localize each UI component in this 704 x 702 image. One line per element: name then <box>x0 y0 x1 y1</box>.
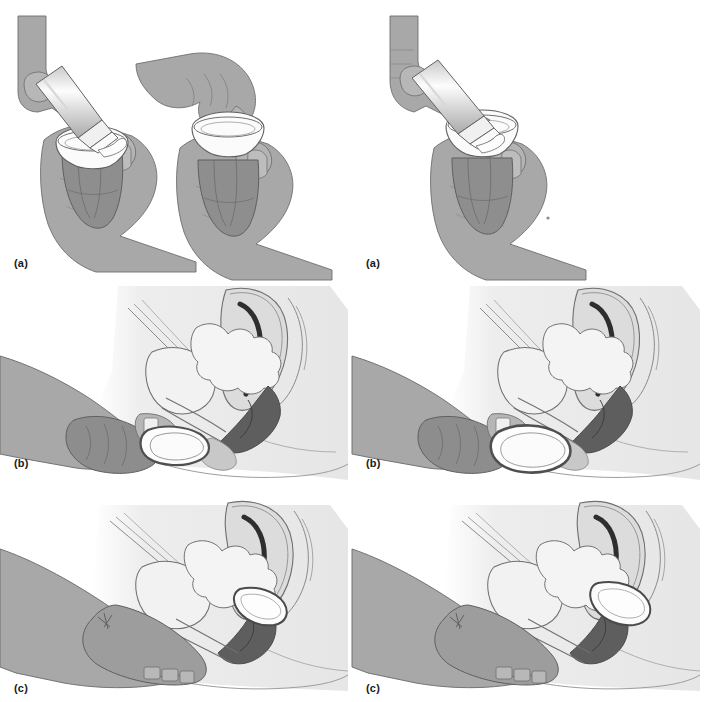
panel-label-right-c: (c) <box>366 683 380 694</box>
panel-label-left-c: (c) <box>14 683 28 694</box>
panel-label-right-b: (b) <box>366 458 381 469</box>
panel-label-left-b: (b) <box>14 458 29 469</box>
folded-cap <box>491 425 571 472</box>
panel-label-right-a: (a) <box>366 258 380 269</box>
figure-root: (a) <box>0 0 704 702</box>
panel-right-a: (a) <box>352 0 704 280</box>
illustration-insertion-left <box>0 280 352 495</box>
illustration-insertion-right <box>352 280 704 495</box>
panel-right-b: (b) <box>352 280 704 495</box>
panel-right-c: (c) <box>352 495 704 702</box>
illustration-seated-left <box>0 495 352 702</box>
illustration-applying-spermicide-right <box>352 0 704 280</box>
panel-left-a: (a) <box>0 0 352 280</box>
illustration-seated-right <box>352 495 704 702</box>
panel-left-c: (c) <box>0 495 352 702</box>
panel-left-b: (b) <box>0 280 352 495</box>
illustration-applying-spermicide-left <box>0 0 352 280</box>
panel-label-left-a: (a) <box>14 258 28 269</box>
folded-diaphragm <box>141 427 210 466</box>
